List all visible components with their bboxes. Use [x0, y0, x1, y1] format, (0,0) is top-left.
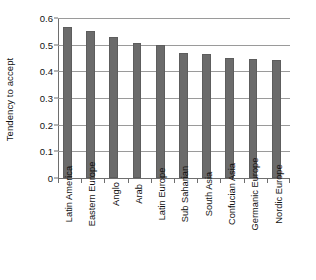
- bar-slot: [81, 18, 104, 178]
- x-axis-label: Germanic Europe: [244, 184, 267, 278]
- bar-slot: [104, 18, 127, 178]
- x-tick-mark: [128, 178, 129, 183]
- bar-slot: [267, 18, 290, 178]
- bar-slot: [244, 18, 267, 178]
- x-axis-label-text: Latin America: [65, 166, 75, 222]
- x-tick-mark: [81, 178, 82, 183]
- x-axis-label-text: Germanic Europe: [250, 158, 260, 231]
- y-tick-label: 0: [48, 173, 53, 184]
- y-tick-label: 0.6: [40, 13, 53, 24]
- y-axis-title: Tendency to accept: [2, 14, 18, 184]
- y-tick-label: 0.3: [40, 93, 53, 104]
- bar: [63, 27, 72, 178]
- x-axis-label-text: Confucian Asia: [227, 163, 237, 225]
- bar-slot: [128, 18, 151, 178]
- bar: [272, 60, 281, 178]
- x-axis-label: Nordic Europe: [267, 184, 290, 278]
- x-tick-mark: [289, 178, 290, 183]
- x-axis-label: Anglo: [104, 184, 127, 278]
- x-axis-label: Latin Europe: [151, 184, 174, 278]
- bar-slot: [151, 18, 174, 178]
- bar-chart-figure: Tendency to accept 00.10.20.30.40.50.6 L…: [0, 0, 316, 280]
- bar: [202, 54, 211, 178]
- x-axis-label: Eastern Europe: [81, 184, 104, 278]
- bar: [225, 58, 234, 178]
- x-tick-mark: [104, 178, 105, 183]
- y-tick-label: 0.2: [40, 119, 53, 130]
- y-tick-label: 0.5: [40, 39, 53, 50]
- bar-slot: [197, 18, 220, 178]
- x-axis-label: Arab: [128, 184, 151, 278]
- x-axis-label: Confucian Asia: [220, 184, 243, 278]
- x-tick-mark: [58, 178, 59, 183]
- bar: [133, 43, 142, 178]
- bar: [179, 53, 188, 178]
- y-tick-label: 0.4: [40, 66, 53, 77]
- x-axis-label-text: Anglo: [111, 182, 121, 206]
- bar: [86, 31, 95, 178]
- x-axis-label-text: Arab: [134, 184, 144, 204]
- x-axis-label-text: Nordic Europe: [273, 164, 283, 223]
- bar-slot: [174, 18, 197, 178]
- x-axis-label: South Asia: [197, 184, 220, 278]
- bars-layer: [58, 18, 290, 178]
- x-axis-label: Latin America: [58, 184, 81, 278]
- x-axis-label: Sub Saharian: [174, 184, 197, 278]
- x-tick-mark: [151, 178, 152, 183]
- x-tick-mark: [267, 178, 268, 183]
- x-tick-mark: [244, 178, 245, 183]
- plot-area: 00.10.20.30.40.50.6: [58, 18, 290, 178]
- bar-slot: [220, 18, 243, 178]
- x-axis-label-text: Latin Europe: [157, 168, 167, 221]
- x-axis-label-text: South Asia: [204, 172, 214, 216]
- x-tick-mark: [197, 178, 198, 183]
- x-axis-label-text: Sub Saharian: [181, 166, 191, 222]
- x-axis-labels: Latin AmericaEastern EuropeAngloArabLati…: [58, 184, 290, 278]
- y-tick-label: 0.1: [40, 146, 53, 157]
- bar: [156, 45, 165, 178]
- x-tick-mark: [220, 178, 221, 183]
- x-tick-mark: [174, 178, 175, 183]
- bar-slot: [58, 18, 81, 178]
- x-axis-label-text: Eastern Europe: [88, 162, 98, 227]
- bar: [109, 37, 118, 178]
- y-axis-title-text: Tendency to accept: [5, 57, 16, 141]
